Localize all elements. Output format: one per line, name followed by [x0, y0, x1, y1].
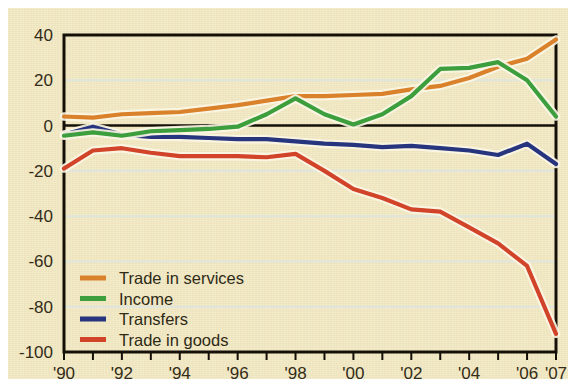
legend-label-trade-in-goods: Trade in goods [119, 331, 228, 349]
line-chart: 40200-20-40-60-80-100'90'92'94'96'98'00'… [0, 0, 576, 385]
y-axis-tick-label: -100 [19, 343, 53, 362]
y-axis-tick-label: -40 [28, 207, 53, 226]
y-axis-tick-label: 20 [34, 71, 53, 90]
legend-label-transfers: Transfers [119, 310, 188, 328]
chart-figure: 40200-20-40-60-80-100'90'92'94'96'98'00'… [0, 0, 576, 385]
y-axis-tick-label: -60 [28, 252, 53, 271]
x-axis-tick-label: '94 [169, 364, 191, 383]
x-axis-tick-label: '06 [516, 364, 538, 383]
y-axis-tick-label: -20 [28, 162, 53, 181]
x-axis-tick-label: '96 [227, 364, 249, 383]
y-axis-tick-label: 40 [34, 26, 53, 45]
x-axis-tick-label: '98 [284, 364, 306, 383]
legend-label-trade-in-services: Trade in services [119, 269, 244, 287]
legend-label-income: Income [119, 290, 173, 308]
x-axis-tick-label: '90 [53, 364, 75, 383]
x-axis-tick-label: '07 [545, 364, 567, 383]
y-axis-tick-label: -80 [28, 298, 53, 317]
x-axis-tick-label: '02 [400, 364, 422, 383]
y-axis-tick-label: 0 [44, 117, 53, 136]
x-axis-tick-label: '00 [342, 364, 364, 383]
x-axis-tick-label: '04 [458, 364, 480, 383]
x-axis-tick-label: '92 [111, 364, 133, 383]
